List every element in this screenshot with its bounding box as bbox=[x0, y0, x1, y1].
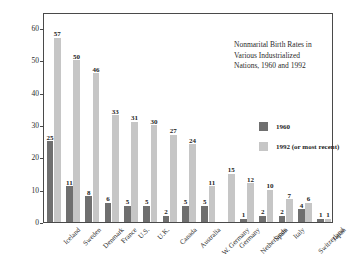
bar bbox=[105, 203, 112, 222]
bar bbox=[279, 216, 286, 222]
bar bbox=[247, 183, 254, 222]
chart-title: Nonmarital Birth Rates in Various Indust… bbox=[234, 40, 349, 72]
legend-swatch-icon-1992 bbox=[259, 142, 268, 151]
bar-value-label: 6 bbox=[300, 195, 318, 203]
bar bbox=[163, 216, 170, 222]
bar-value-label: 33 bbox=[106, 108, 124, 116]
bar bbox=[209, 186, 216, 222]
bar-value-label: 7 bbox=[280, 192, 298, 200]
bar-value-label: 10 bbox=[261, 182, 279, 190]
y-tick-label: 20 bbox=[15, 153, 39, 162]
y-tick-label: 0 bbox=[15, 218, 39, 227]
x-tick-label: Sweden bbox=[81, 226, 102, 247]
x-tick-label: U.K. bbox=[156, 226, 171, 241]
bar bbox=[66, 186, 73, 222]
chart-title-line-2: Various Industrialized bbox=[234, 51, 349, 62]
x-tick-label: Japan bbox=[331, 226, 348, 243]
chart-title-line-3: Nations, 1960 and 1992 bbox=[234, 61, 349, 72]
bar-value-label: 50 bbox=[68, 53, 86, 61]
bar-chart: Percent of All Births 0102030405060 2557… bbox=[0, 0, 349, 274]
bar bbox=[47, 141, 54, 222]
bar bbox=[189, 144, 196, 222]
bar-value-label: 11 bbox=[203, 179, 221, 187]
bar-value-label: 31 bbox=[126, 114, 144, 122]
bar-value-label: 46 bbox=[87, 66, 105, 74]
y-tick-label: 30 bbox=[15, 121, 39, 130]
x-tick-label: Spain bbox=[273, 226, 290, 243]
legend-item-1960[interactable]: 1960 bbox=[259, 122, 339, 131]
bar bbox=[298, 209, 305, 222]
bar bbox=[201, 206, 208, 222]
legend-swatch-icon-1960 bbox=[259, 122, 268, 131]
y-tick-mark bbox=[40, 223, 43, 224]
bar-value-label: 30 bbox=[145, 118, 163, 126]
x-tick-label: Canada bbox=[178, 226, 199, 247]
legend: 1960 1992 (or most recent) bbox=[259, 122, 339, 162]
chart-title-line-1: Nonmarital Birth Rates in bbox=[234, 40, 349, 51]
bar-value-label: 57 bbox=[48, 30, 66, 38]
y-tick-label: 10 bbox=[15, 186, 39, 195]
x-tick-label: Australia bbox=[199, 226, 223, 250]
bar-value-label: 15 bbox=[222, 166, 240, 174]
bar bbox=[54, 38, 61, 222]
bar-value-label: 27 bbox=[164, 127, 182, 135]
plot-area: 2557115084663353153022752451115112210274… bbox=[43, 13, 333, 223]
y-tick-label: 60 bbox=[15, 24, 39, 33]
bar bbox=[124, 206, 131, 222]
x-tick-label: Iceland bbox=[62, 226, 82, 246]
bar bbox=[85, 196, 92, 222]
bar bbox=[182, 206, 189, 222]
bar bbox=[259, 216, 266, 222]
bar-value-label: 12 bbox=[242, 176, 260, 184]
legend-item-1992[interactable]: 1992 (or most recent) bbox=[259, 142, 339, 151]
bar-value-label: 1 bbox=[319, 211, 337, 219]
bar bbox=[143, 206, 150, 222]
x-tick-label: U.S. bbox=[137, 226, 151, 240]
bar bbox=[267, 190, 274, 222]
legend-label-1992: 1992 (or most recent) bbox=[276, 143, 339, 151]
bar bbox=[73, 60, 80, 222]
bar bbox=[131, 122, 138, 222]
legend-label-1960: 1960 bbox=[276, 123, 290, 131]
bar-value-label: 24 bbox=[184, 137, 202, 145]
x-tick-label: Italy bbox=[291, 226, 306, 241]
bar bbox=[170, 135, 177, 222]
y-tick-label: 40 bbox=[15, 89, 39, 98]
y-tick-label: 50 bbox=[15, 56, 39, 65]
